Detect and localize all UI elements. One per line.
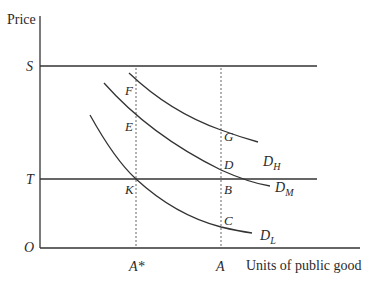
point-c-label: C (224, 213, 233, 228)
a-tick-label: A (215, 259, 225, 274)
s-tick-label: S (26, 59, 33, 74)
origin-label: O (24, 240, 34, 255)
point-g-label: G (224, 129, 234, 144)
curve-d-m (104, 83, 270, 186)
curve-d-h (129, 73, 258, 142)
curve-d-m-label: DM (274, 180, 294, 198)
curve-d-l-label: DL (259, 228, 276, 246)
point-k-label: K (124, 182, 135, 197)
t-tick-label: T (26, 172, 35, 187)
point-b-label: B (224, 182, 232, 197)
x-axis-label: Units of public good (246, 258, 362, 273)
point-f-label: F (124, 83, 134, 98)
a-star-tick-label: A* (128, 259, 145, 274)
point-e-label: E (124, 119, 133, 134)
y-axis-label: Price (7, 12, 36, 27)
curve-d-h-label: DH (262, 154, 281, 172)
point-d-label: D (223, 157, 234, 172)
public-good-diagram: Price Units of public good O S T A* A F … (0, 0, 379, 281)
